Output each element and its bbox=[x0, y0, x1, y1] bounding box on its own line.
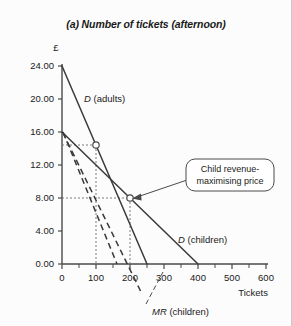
marker-child-revenue-max-price[interactable] bbox=[127, 195, 133, 201]
curve-label-mr-children-text: (children) bbox=[167, 306, 209, 317]
curve-mr-children bbox=[63, 133, 142, 294]
y-tick-label-8: 8.00 bbox=[36, 192, 55, 203]
y-tick-label-12: 12.00 bbox=[30, 159, 54, 170]
x-tick-label-0: 0 bbox=[59, 272, 64, 283]
callout-child-revenue-max-price[interactable]: Child revenue- maximising price bbox=[132, 159, 274, 201]
y-tick-label-4: 4.00 bbox=[36, 225, 55, 236]
economics-chart: 24.00 20.00 16.00 12.00 8.00 4.00 0.00 £ bbox=[0, 0, 292, 326]
x-axis-name-label: Tickets bbox=[238, 287, 268, 298]
marker-adult-price-point[interactable] bbox=[93, 142, 99, 148]
curve-label-mr-children-symbol: MR bbox=[152, 306, 167, 317]
x-tick-label-600: 600 bbox=[258, 272, 274, 283]
y-tick-label-24: 24.00 bbox=[30, 60, 54, 71]
callout-text-line-1: Child revenue- bbox=[201, 164, 260, 174]
x-axis-tick-labels: 0 100 200 300 400 500 600 bbox=[59, 272, 274, 283]
y-tick-label-16: 16.00 bbox=[30, 126, 54, 137]
figure-container: (a) Number of tickets (afternoon) 24.00 … bbox=[0, 0, 292, 326]
y-axis-unit-label: £ bbox=[53, 42, 59, 53]
y-tick-label-20: 20.00 bbox=[30, 93, 54, 104]
guide-lines-group bbox=[62, 145, 130, 264]
x-tick-label-100: 100 bbox=[88, 272, 104, 283]
curve-label-d-children: D (children) bbox=[178, 234, 227, 245]
curve-label-d-adults-text: (adults) bbox=[91, 93, 125, 104]
y-tick-label-0: 0.00 bbox=[36, 258, 55, 269]
x-tick-label-500: 500 bbox=[224, 272, 240, 283]
curve-label-d-children-text: (children) bbox=[185, 234, 227, 245]
y-axis-tick-labels: 24.00 20.00 16.00 12.00 8.00 4.00 0.00 bbox=[30, 60, 54, 269]
callout-arrow-line bbox=[137, 178, 193, 197]
curve-label-mr-children: MR (children) bbox=[152, 306, 209, 317]
x-tick-label-400: 400 bbox=[190, 272, 206, 283]
x-axis-ticks bbox=[62, 264, 266, 269]
callout-text-line-2: maximising price bbox=[196, 176, 263, 186]
curve-label-d-adults: D (adults) bbox=[84, 93, 125, 104]
